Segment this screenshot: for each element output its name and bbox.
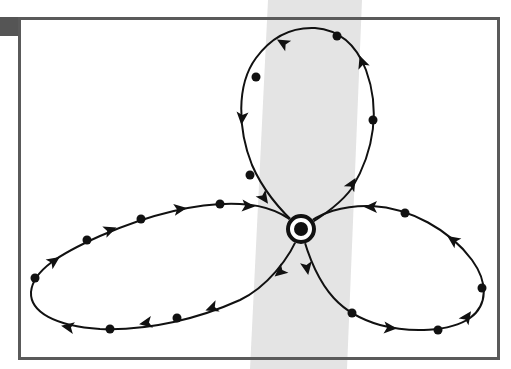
lobes-group [31,28,487,335]
position-dot-icon [401,209,410,218]
direction-arrow-icon [383,321,397,334]
orbit-diagram [0,0,511,369]
position-dot-icon [216,200,225,209]
direction-arrow-icon [241,199,255,212]
position-dot-icon [106,325,115,334]
direction-arrow-icon [256,190,273,208]
position-dot-icon [478,284,487,293]
node-center-dot-icon [294,222,308,236]
trajectory-left [31,204,301,329]
direction-arrow-icon [354,53,370,69]
position-dot-icon [333,32,342,41]
position-dot-icon [31,274,40,283]
direction-arrow-icon [271,264,289,282]
trajectory-right [301,206,484,330]
lobe-right [300,201,486,335]
lobe-left [31,199,302,333]
direction-arrow-icon [46,252,64,269]
position-dot-icon [173,314,182,323]
position-dot-icon [434,326,443,335]
position-dot-icon [348,309,357,318]
position-dot-icon [252,73,261,82]
position-dot-icon [137,215,146,224]
position-dot-icon [369,116,378,125]
position-dot-icon [83,236,92,245]
lobe-top [235,28,377,229]
center-node [286,214,316,244]
position-dot-icon [246,171,255,180]
